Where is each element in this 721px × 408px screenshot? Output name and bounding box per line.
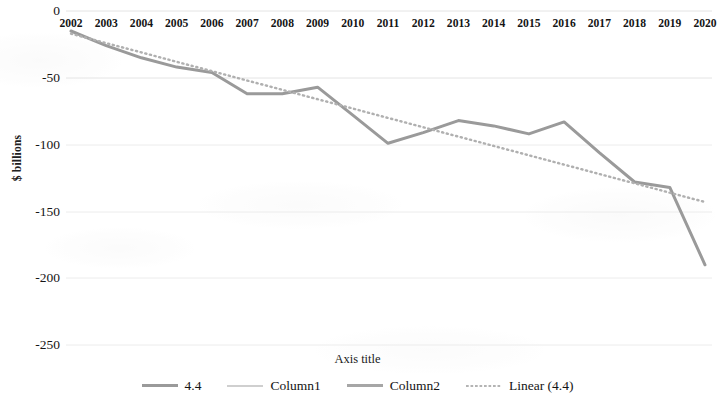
x-tick-label-2004: 2004	[122, 18, 160, 30]
x-tick-label-2018: 2018	[616, 18, 654, 30]
x-tick-label-2011: 2011	[369, 18, 407, 30]
legend-item-column2[interactable]: Column2	[347, 379, 440, 393]
x-tick-label-2006: 2006	[193, 18, 231, 30]
x-axis-title: Axis title	[0, 352, 715, 367]
x-tick-label-2019: 2019	[651, 18, 689, 30]
legend-label-column2: Column2	[390, 379, 440, 393]
x-tick-label-2015: 2015	[510, 18, 548, 30]
x-tick-label-2003: 2003	[87, 18, 125, 30]
legend-label-4-4: 4.4	[185, 379, 202, 393]
legend-marker-icon-linear	[466, 385, 502, 387]
x-tick-label-2016: 2016	[545, 18, 583, 30]
legend-marker-icon-column2	[347, 384, 383, 387]
trendline-linear-4-4	[71, 34, 705, 202]
x-tick-label-2010: 2010	[334, 18, 372, 30]
legend-item-column1[interactable]: Column1	[227, 379, 320, 393]
legend-marker-icon-4-4	[142, 384, 178, 387]
x-tick-label-2007: 2007	[228, 18, 266, 30]
legend-item-linear-4-4[interactable]: Linear (4.4)	[466, 379, 573, 393]
x-tick-label-2020: 2020	[686, 18, 721, 30]
x-tick-label-2008: 2008	[263, 18, 301, 30]
legend-label-column1: Column1	[270, 379, 320, 393]
chart-legend: 4.4 Column1 Column2 Linear (4.4)	[0, 379, 715, 393]
x-tick-label-2014: 2014	[475, 18, 513, 30]
legend-label-linear-4-4: Linear (4.4)	[509, 379, 573, 393]
legend-item-4-4[interactable]: 4.4	[142, 379, 202, 393]
x-tick-label-2012: 2012	[404, 18, 442, 30]
x-tick-label-2002: 2002	[52, 18, 90, 30]
x-tick-label-2013: 2013	[439, 18, 477, 30]
x-tick-label-2005: 2005	[158, 18, 196, 30]
legend-marker-icon-column1	[227, 385, 263, 387]
series-line-4-4	[71, 31, 705, 265]
x-tick-label-2017: 2017	[580, 18, 618, 30]
x-tick-label-2009: 2009	[299, 18, 337, 30]
